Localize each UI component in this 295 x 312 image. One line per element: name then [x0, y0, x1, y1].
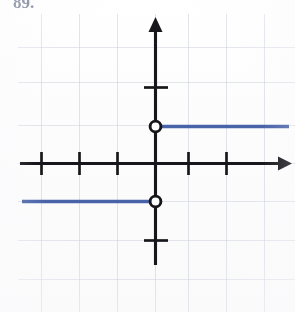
- y-axis-arrowhead: [149, 17, 163, 32]
- axes: [20, 17, 292, 265]
- open-point-upper: [150, 121, 161, 132]
- figure-root: 89.: [0, 0, 295, 312]
- open-point-lower: [150, 196, 161, 207]
- coordinate-plane: [0, 0, 295, 312]
- x-axis-arrowhead: [278, 157, 292, 171]
